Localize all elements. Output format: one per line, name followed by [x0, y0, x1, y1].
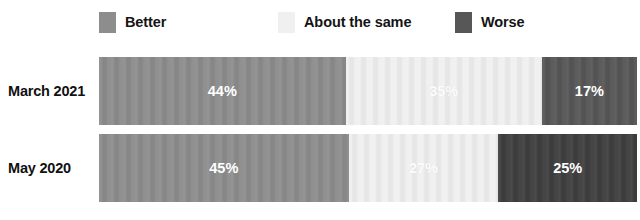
stacked-bar-may-2020: 45% 27% 25%: [99, 134, 637, 202]
stacked-bar-chart: March 2021 44% 35% 17% May 2020 45% 27% …: [0, 0, 640, 220]
chart-row-may-2020: May 2020 45% 27% 25%: [0, 134, 640, 202]
bar-segment-value: 44%: [208, 84, 237, 99]
bar-segment-value: 25%: [553, 161, 582, 176]
bar-segment-value: 27%: [409, 161, 438, 176]
bar-segment-about-the-same-may-2020[interactable]: 27%: [349, 134, 499, 202]
bar-segment-value: 17%: [575, 84, 604, 99]
bar-segment-about-the-same-march-2021[interactable]: 35%: [346, 57, 542, 125]
row-label-march-2021: March 2021: [8, 57, 94, 125]
bar-segment-value: 35%: [429, 84, 458, 99]
chart-row-march-2021: March 2021 44% 35% 17%: [0, 57, 640, 125]
row-label-may-2020: May 2020: [8, 134, 94, 202]
bar-segment-value: 45%: [209, 161, 238, 176]
bar-segment-worse-may-2020[interactable]: 25%: [498, 134, 637, 202]
stacked-bar-march-2021: 44% 35% 17%: [99, 57, 637, 125]
bar-segment-better-march-2021[interactable]: 44%: [99, 57, 346, 125]
bar-segment-worse-march-2021[interactable]: 17%: [542, 57, 637, 125]
bar-segment-better-may-2020[interactable]: 45%: [99, 134, 349, 202]
